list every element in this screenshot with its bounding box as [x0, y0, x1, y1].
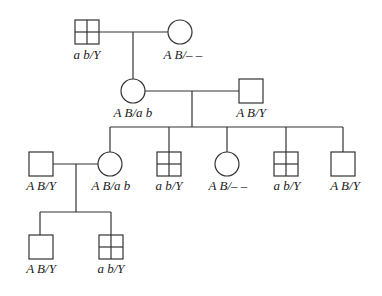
gen1-mother-female [168, 20, 192, 44]
gen2-daughter-female [121, 79, 145, 103]
gen3-spouse-male [29, 152, 53, 176]
gen4-son-male [29, 235, 53, 259]
gen3-daughter-female [98, 152, 122, 176]
genotype-label: A B/a b [91, 178, 131, 193]
pedigree-diagram: a b/Y A B/– – A B/a b A B/Y A B/Y A B/a … [0, 0, 382, 296]
gen4-son2-affected-male [99, 235, 123, 259]
genotype-label: A B/– – [208, 178, 248, 193]
gen1-mother-genotype: A B/– – [163, 47, 203, 62]
gen3-son-affected-male [157, 152, 181, 176]
gen3-son3-male [331, 152, 355, 176]
gen3-daughter2-female [215, 152, 239, 176]
gen2-spouse-male [239, 79, 263, 103]
gen3-son2-affected-male [274, 152, 298, 176]
genotype-label: a b/Y [155, 178, 184, 193]
gen1-father-affected-male [75, 20, 99, 44]
genotype-label: a b/Y [97, 261, 126, 276]
gen2-spouse-genotype: A B/Y [235, 105, 268, 120]
gen2-daughter-genotype: A B/a b [113, 105, 153, 120]
genotype-label: a b/Y [273, 178, 302, 193]
genotype-label: A B/Y [25, 261, 58, 276]
genotype-label: A B/Y [329, 178, 362, 193]
genotype-label: A B/Y [25, 178, 58, 193]
gen1-father-genotype: a b/Y [73, 47, 102, 62]
